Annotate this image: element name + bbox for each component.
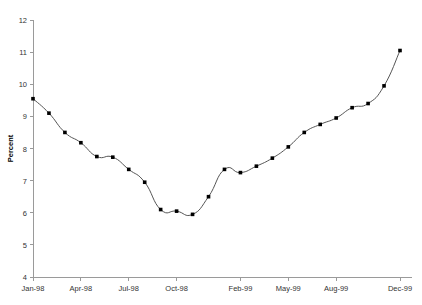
data-point-marker: Aug-98: 6.95 (143, 180, 147, 184)
x-tick-label: Aug-99 (324, 284, 348, 293)
data-point-marker: Jan-98: 9.55 (31, 97, 35, 101)
line-chart: 456789101112 Jan-98Apr-98Jul-98Oct-98Feb… (0, 0, 422, 305)
series-line-percent (33, 51, 400, 216)
y-axis: 456789101112 (19, 16, 33, 282)
data-point-marker: Apr-99: 7.7 (271, 156, 275, 160)
x-tick-label: Feb-99 (229, 284, 253, 293)
data-point-marker: Feb-99: 7.25 (239, 171, 243, 175)
data-point-marker: Jul-99: 8.75 (318, 123, 322, 127)
y-tick-label: 11 (19, 48, 27, 57)
data-point-marker: Oct-99: 9.4 (366, 102, 370, 106)
data-point-marker: Apr-98: 8.18 (79, 141, 83, 145)
y-tick-label: 12 (19, 16, 27, 25)
x-tick-label: Jan-98 (22, 284, 45, 293)
x-tick-label: Dec-99 (388, 284, 412, 293)
data-point-marker: Jan-99: 7.35 (223, 168, 227, 172)
data-point-marker: May-99: 8.05 (287, 145, 291, 149)
x-tick-label: May-99 (276, 284, 301, 293)
data-point-marker: Mar-98: 8.5 (63, 131, 67, 135)
y-tick-label: 7 (23, 177, 27, 186)
y-tick-label: 8 (23, 145, 27, 154)
data-point-marker: Nov-99: 9.95 (382, 84, 386, 88)
y-axis-title-text: Percent (6, 134, 15, 162)
data-point-marker: Sep-99: 9.27 (350, 106, 354, 110)
y-tick-label: 10 (19, 80, 27, 89)
data-point-marker: Aug-99: 8.95 (334, 116, 338, 120)
y-axis-title: Percent (6, 134, 15, 162)
data-point-marker: May-98: 7.75 (95, 155, 99, 159)
data-point-marker: Mar-99: 7.45 (255, 164, 259, 168)
y-tick-label: 4 (23, 273, 27, 282)
x-tick-label: Jul-98 (119, 284, 139, 293)
data-point-marker: Oct-98: 6.05 (175, 209, 179, 213)
x-tick-label: Oct-98 (165, 284, 188, 293)
y-tick-label: 6 (23, 209, 27, 218)
data-point-marker: Feb-98: 9.1 (47, 111, 51, 115)
x-tick-label: Apr-98 (70, 284, 93, 293)
x-axis: Jan-98Apr-98Jul-98Oct-98Feb-99May-99Aug-… (22, 277, 413, 293)
chart-container: 456789101112 Jan-98Apr-98Jul-98Oct-98Feb… (0, 0, 422, 305)
data-series-percent: Jan-98: 9.55Feb-98: 9.1Mar-98: 8.5Apr-98… (31, 49, 402, 216)
data-point-marker: Sep-98: 6.1 (159, 208, 163, 212)
data-point-marker: Nov-98: 5.95 (191, 213, 195, 217)
data-point-marker: Dec-99: 11.05 (398, 49, 402, 53)
data-point-marker: Jul-98: 7.35 (127, 168, 131, 172)
y-tick-label: 9 (23, 112, 27, 121)
data-point-marker: Jun-99: 8.5 (302, 131, 306, 135)
data-point-marker: Jun-98: 7.73 (111, 155, 115, 159)
data-point-marker: Dec-98: 6.5 (207, 195, 211, 199)
y-tick-label: 5 (23, 241, 27, 250)
